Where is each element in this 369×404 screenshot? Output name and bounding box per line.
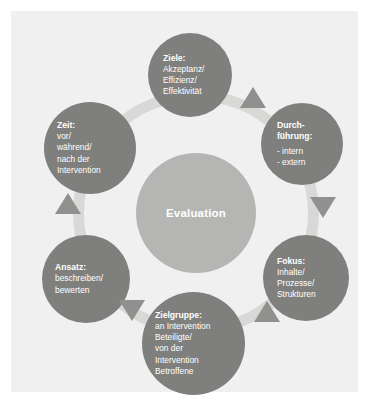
node-ziele-title: Ziele: bbox=[163, 53, 185, 64]
node-ansatz: Ansatz: beschreiben/ bewerten bbox=[42, 235, 130, 323]
node-fokus-body: Inhalte/ Prozesse/ Strukturen bbox=[277, 267, 316, 301]
node-ziele: Ziele: Akzeptanz/ Effizienz/ Effektivitä… bbox=[148, 33, 232, 117]
arrow-down-icon-durchfuehrung-fokus bbox=[310, 197, 336, 218]
arrow-up-icon-fokus-zielgruppe bbox=[254, 301, 280, 322]
evaluation-cycle-diagram: Evaluation Ziele: Akzeptanz/ Effizienz/ … bbox=[0, 0, 369, 404]
node-ansatz-title: Ansatz: bbox=[55, 262, 86, 273]
node-durchfuehrung: Durch- führung: - intern - extern bbox=[261, 103, 343, 185]
node-zeit-title: Zeit: bbox=[57, 120, 75, 131]
node-ansatz-body: beschreiben/ bewerten bbox=[55, 273, 103, 295]
node-ziele-body: Akzeptanz/ Effizienz/ Effektivität bbox=[163, 64, 204, 98]
center-node-label: Evaluation bbox=[166, 207, 226, 219]
node-zeit: Zeit: vor/ während/ nach der Interventio… bbox=[44, 102, 136, 194]
center-node-evaluation: Evaluation bbox=[136, 153, 256, 273]
diagram-panel: Evaluation Ziele: Akzeptanz/ Effizienz/ … bbox=[11, 11, 358, 392]
node-durchfuehrung-body: - intern - extern bbox=[277, 146, 305, 168]
node-zielgruppe-title: Zielgruppe: bbox=[155, 310, 202, 321]
arrow-up-icon-ziele-durchfuehrung bbox=[240, 87, 266, 108]
node-zielgruppe-body: an Intervention Beteiligte/ von der Inte… bbox=[155, 321, 210, 377]
arrow-down-icon-zielgruppe-ansatz bbox=[119, 300, 145, 321]
arrow-up-icon-ansatz-zeit bbox=[55, 193, 81, 214]
node-zeit-body: vor/ während/ nach der Intervention bbox=[57, 131, 101, 176]
node-durchfuehrung-title: Durch- führung: bbox=[277, 120, 312, 142]
node-fokus-title: Fokus: bbox=[277, 256, 305, 267]
node-zielgruppe: Zielgruppe: an Intervention Beteiligte/ … bbox=[142, 292, 245, 395]
